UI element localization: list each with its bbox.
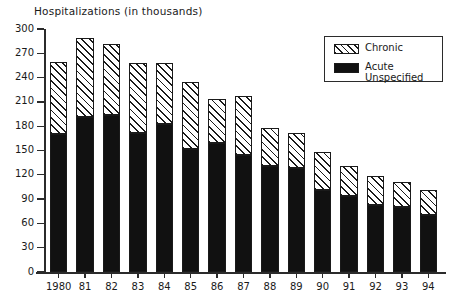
bar-segment-acute[interactable] [76,117,94,272]
bar-segment-acute[interactable] [314,190,332,272]
legend-label-acute-line1: Acute [365,61,394,72]
bar-segment-acute[interactable] [182,149,200,272]
hospitalizations-stacked-bar-chart: Hospitalizations (in thousands) 30027024… [0,0,454,306]
legend-label-acute: AcuteUnspecified [365,61,423,83]
bar-segment-chronic[interactable] [156,63,174,124]
x-tick-mark [137,273,138,278]
bar-segment-chronic[interactable] [103,44,121,115]
bar-group[interactable] [50,29,68,272]
bar-group[interactable] [261,29,279,272]
bar-segment-acute[interactable] [156,124,174,272]
y-tick-label: 30 [21,241,34,252]
bar-segment-acute[interactable] [288,168,306,272]
chart-title: Hospitalizations (in thousands) [34,5,202,17]
bar-segment-chronic[interactable] [182,82,200,148]
bar-segment-chronic[interactable] [314,152,332,190]
x-tick-mark [375,273,376,278]
x-tick-mark [401,273,402,278]
bar-segment-chronic[interactable] [76,38,94,117]
bar-segment-chronic[interactable] [340,166,358,196]
x-tick-mark [322,273,323,278]
y-tick-label: 150 [15,144,34,155]
x-tick-mark [190,273,191,278]
bar-segment-chronic[interactable] [420,190,438,215]
bar-group[interactable] [208,29,226,272]
y-tick-mark [37,126,44,127]
y-tick-label: 120 [15,168,34,179]
x-tick-mark [58,273,59,278]
bar-group[interactable] [76,29,94,272]
x-tick-mark [428,273,429,278]
y-tick-label: 60 [21,217,34,228]
bar-segment-acute[interactable] [103,115,121,272]
bar-segment-acute[interactable] [367,205,385,272]
bar-segment-acute[interactable] [129,133,147,272]
bar-segment-chronic[interactable] [235,96,253,155]
bar-group[interactable] [103,29,121,272]
y-tick-label: 210 [15,95,34,106]
x-tick-mark [269,273,270,278]
x-tick-mark [243,273,244,278]
y-tick-mark [37,150,44,151]
bar-group[interactable] [235,29,253,272]
y-axis-labels: 3002702402101801501209060300 [0,0,34,306]
y-tick-label: 300 [15,23,34,34]
y-tick-mark [37,198,44,199]
y-tick-mark [37,247,44,248]
bar-segment-chronic[interactable] [367,176,385,205]
y-tick-label: 240 [15,71,34,82]
x-tick-mark [216,273,217,278]
solid-black-swatch-icon [334,63,359,73]
x-tick-mark [84,273,85,278]
x-axis-line [36,272,446,274]
bar-segment-acute[interactable] [50,134,68,272]
y-tick-mark [37,28,44,29]
bar-segment-acute[interactable] [393,207,411,272]
bar-segment-chronic[interactable] [288,133,306,168]
bar-segment-chronic[interactable] [393,182,411,207]
bar-segment-acute[interactable] [208,143,226,272]
y-tick-mark [37,77,44,78]
x-tick-mark [164,273,165,278]
legend-label-acute-line2: Unspecified [365,72,423,83]
bar-segment-acute[interactable] [235,155,253,272]
x-tick-mark [111,273,112,278]
bar-group[interactable] [288,29,306,272]
y-tick-label: 180 [15,120,34,131]
hatched-swatch-icon [334,44,359,54]
bar-segment-acute[interactable] [261,166,279,272]
y-tick-mark [37,101,44,102]
bar-segment-chronic[interactable] [129,63,147,133]
bar-segment-acute[interactable] [420,215,438,272]
bar-segment-chronic[interactable] [208,99,226,143]
y-tick-label: 0 [28,266,34,277]
bar-group[interactable] [182,29,200,272]
chart-legend: Chronic AcuteUnspecified [324,36,443,82]
y-tick-label: 90 [21,193,34,204]
bar-segment-chronic[interactable] [261,128,279,166]
y-tick-mark [37,53,44,54]
bar-segment-chronic[interactable] [50,62,68,134]
y-tick-mark [37,223,44,224]
bar-segment-acute[interactable] [340,196,358,272]
legend-label-chronic: Chronic [365,42,403,53]
x-tick-label: 94 [408,281,448,292]
x-tick-mark [348,273,349,278]
y-tick-mark [37,174,44,175]
bar-group[interactable] [129,29,147,272]
bar-group[interactable] [156,29,174,272]
y-tick-label: 270 [15,47,34,58]
x-tick-mark [296,273,297,278]
